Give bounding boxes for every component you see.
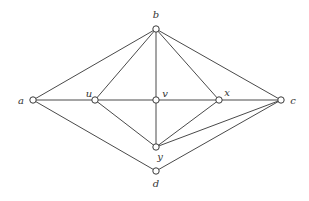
edge-x-y — [156, 100, 219, 147]
node-label-b: b — [153, 9, 159, 20]
node-label-x: x — [224, 87, 230, 98]
edge-d-c — [156, 100, 281, 171]
node-u — [92, 97, 98, 103]
node-y — [153, 144, 159, 150]
node-b — [153, 26, 159, 32]
graph-diagram: a b c d u v x y — [0, 0, 309, 201]
node-label-v: v — [162, 88, 168, 99]
node-c — [278, 97, 284, 103]
node-d — [153, 168, 159, 174]
node-label-y: y — [156, 151, 163, 162]
node-v — [153, 97, 159, 103]
edge-y-c — [156, 100, 281, 147]
edge-a-d — [33, 100, 156, 171]
edge-b-u — [95, 29, 156, 100]
node-x — [216, 97, 222, 103]
edge-b-c — [156, 29, 281, 100]
node-label-u: u — [86, 88, 92, 99]
edge-a-b — [33, 29, 156, 100]
node-a — [30, 97, 36, 103]
node-label-c: c — [290, 95, 296, 106]
edge-u-y — [95, 100, 156, 147]
node-label-d: d — [153, 178, 159, 189]
node-label-a: a — [18, 95, 24, 106]
